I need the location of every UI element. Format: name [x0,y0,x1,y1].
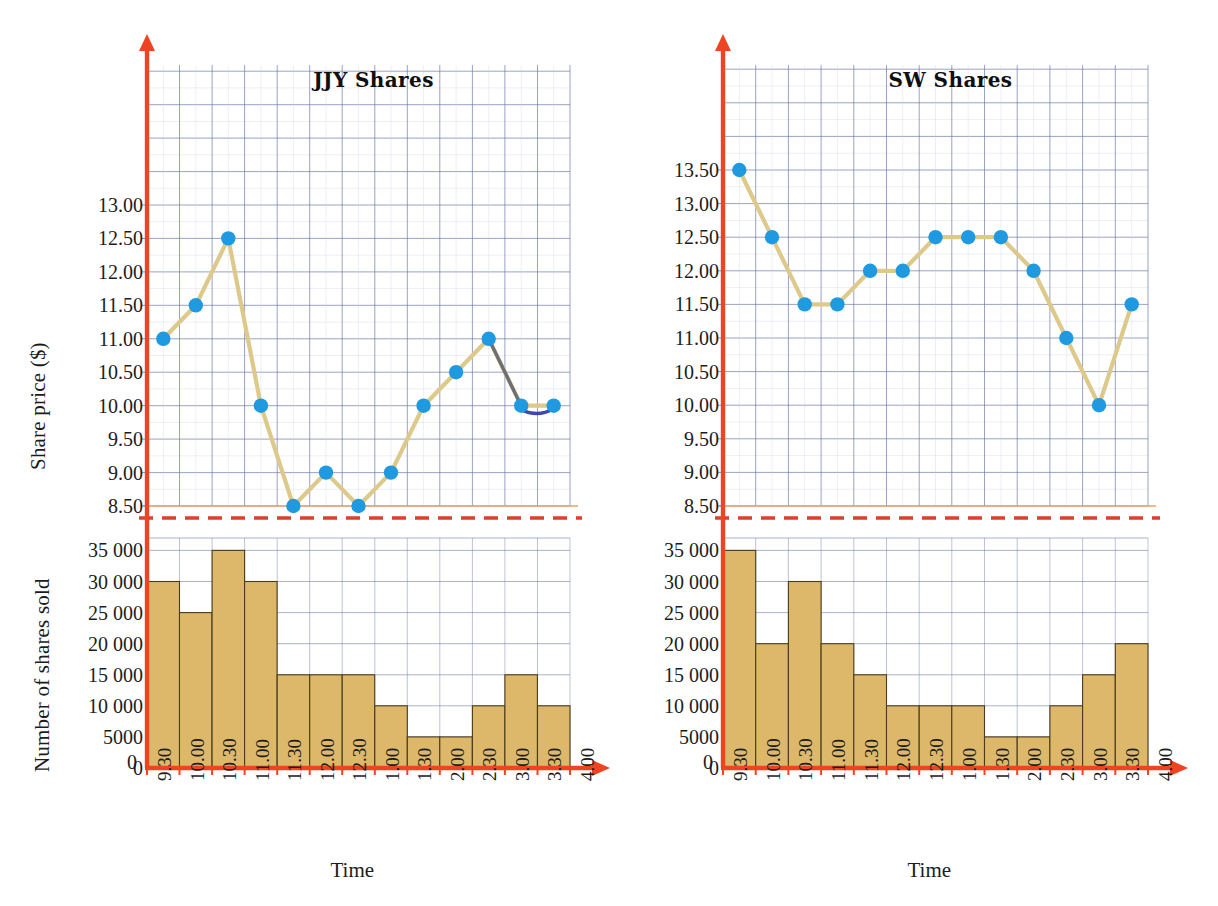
x-tick-label: 9.30 [154,748,176,781]
y-tick-label: 9.00 [33,461,143,484]
y-tick-label: 8.50 [609,495,719,518]
data-point [1092,398,1106,412]
x-tick-label: 11.00 [828,739,850,781]
x-tick-label: 1.30 [992,748,1014,781]
histogram-bar [723,550,756,768]
x-tick-label: 1.00 [959,748,981,781]
data-point [765,230,779,244]
data-point [994,230,1008,244]
data-point [547,399,561,413]
y-tick-label: 13.00 [33,194,143,217]
x-tick-label: 3.30 [1122,748,1144,781]
x-tick-label: 11.30 [861,739,883,781]
y-tick-label: 12.00 [609,259,719,282]
x-tick-label: 9.30 [730,748,752,781]
data-point [351,499,365,513]
y-tick-label: 10.00 [33,394,143,417]
y-tick-label: 13.50 [609,159,719,182]
data-point [830,297,844,311]
data-point [156,332,170,346]
y-tick-label: 20 000 [21,632,143,655]
x-tick-label: 12.30 [926,738,948,781]
origin-zero-label: 0 [703,751,713,774]
y-tick-label: 11.50 [609,293,719,316]
y-tick-label: 8.50 [33,495,143,518]
y-tick-label: 10.00 [609,394,719,417]
x-tick-label: 3.30 [544,748,566,781]
chart-panel-sw: SW Shares Share price ($) Number of shar… [608,0,1218,906]
y-tick-label: 12.50 [33,227,143,250]
x-tick-label: 1.30 [414,748,436,781]
x-tick-label: 2.30 [1057,748,1079,781]
chart-title-jjy: JJY Shares [0,68,600,92]
y-tick-label: 25 000 [597,601,719,624]
x-axis-label-time-jjy: Time [331,858,375,883]
y-tick-label: 11.00 [33,327,143,350]
x-tick-label: 1.00 [382,748,404,781]
data-point [319,465,333,479]
y-tick-label: 35 000 [21,539,143,562]
data-point [961,230,975,244]
data-point [1059,331,1073,345]
x-tick-label: 4.00 [577,748,599,781]
x-tick-label: 2.00 [447,748,469,781]
y-tick-label: 0 [21,757,143,780]
data-point [928,230,942,244]
x-tick-label: 12.30 [349,738,371,781]
origin-zero-label: 0 [127,751,137,774]
y-tick-label: 9.50 [609,427,719,450]
y-tick-label: 15 000 [597,663,719,686]
y-tick-label: 15 000 [21,663,143,686]
y-tick-label: 5000 [597,725,719,748]
y-tick-label: 0 [597,757,719,780]
figure-canvas: JJY Shares Share price ($) Number of sha… [0,0,1218,906]
y-tick-label: 9.50 [33,428,143,451]
data-point [416,399,430,413]
y-tick-label: 5000 [21,725,143,748]
data-point [221,231,235,245]
y-tick-label: 25 000 [21,601,143,624]
histogram-bar [212,550,245,768]
y-tick-label: 10.50 [33,361,143,384]
y-tick-label: 10.50 [609,360,719,383]
x-tick-label: 11.30 [284,739,306,781]
data-point [482,332,496,346]
y-tick-label: 11.00 [609,327,719,350]
y-tick-label: 30 000 [21,570,143,593]
y-tick-label: 10 000 [597,694,719,717]
data-point [798,297,812,311]
y-tick-label: 30 000 [597,570,719,593]
x-tick-label: 2.00 [1024,748,1046,781]
histogram-bar [147,582,180,769]
y-tick-label: 10 000 [21,694,143,717]
data-point [1026,264,1040,278]
x-tick-label: 4.00 [1155,748,1177,781]
x-tick-label: 11.00 [252,739,274,781]
data-point [384,465,398,479]
data-point [896,264,910,278]
x-tick-label: 2.30 [479,748,501,781]
chart-title-sw: SW Shares [608,68,1178,92]
y-tick-label: 9.00 [609,461,719,484]
x-tick-label: 3.00 [1090,748,1112,781]
x-tick-label: 3.00 [512,748,534,781]
y-tick-label: 35 000 [597,539,719,562]
y-tick-label: 11.50 [33,294,143,317]
data-point [449,365,463,379]
data-point [286,499,300,513]
data-point [514,399,528,413]
data-point [1125,297,1139,311]
y-tick-label: 13.00 [609,192,719,215]
x-axis-label-time-sw: Time [908,858,952,883]
x-tick-label: 10.00 [763,738,785,781]
y-tick-label: 20 000 [597,632,719,655]
y-tick-label: 12.00 [33,260,143,283]
y-tick-label: 12.50 [609,226,719,249]
x-tick-label: 12.00 [893,738,915,781]
data-point [863,264,877,278]
x-tick-label: 10.30 [219,738,241,781]
data-point [189,298,203,312]
chart-panel-jjy: JJY Shares Share price ($) Number of sha… [0,0,610,906]
data-point [254,399,268,413]
x-tick-label: 10.30 [795,738,817,781]
